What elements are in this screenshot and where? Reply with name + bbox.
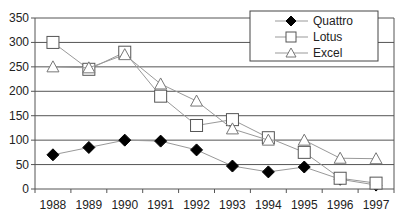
y-tick-label: 200: [9, 84, 29, 98]
series-excel: [47, 49, 382, 164]
legend: QuattroLotusExcel: [250, 11, 378, 61]
x-tick-label: 1990: [111, 198, 138, 212]
square-marker-icon: [334, 172, 346, 184]
diamond-marker-icon: [119, 134, 131, 146]
series-line: [53, 55, 376, 159]
square-marker-icon: [370, 177, 382, 189]
diamond-marker-icon: [226, 160, 238, 172]
x-tick-label: 1994: [255, 198, 282, 212]
y-tick-label: 0: [22, 182, 29, 196]
legend-label: Quattro: [313, 14, 353, 28]
diamond-marker-icon: [83, 141, 95, 153]
series-quattro: [47, 134, 382, 191]
y-tick-label: 100: [9, 133, 29, 147]
y-tick-label: 350: [9, 11, 29, 25]
x-tick-label: 1991: [147, 198, 174, 212]
triangle-marker-icon: [334, 152, 346, 163]
y-tick-label: 150: [9, 109, 29, 123]
x-tick-label: 1993: [219, 198, 246, 212]
x-tick-label: 1992: [183, 198, 210, 212]
x-tick-label: 1988: [40, 198, 67, 212]
diamond-marker-icon: [191, 144, 203, 156]
diamond-marker-icon: [262, 166, 274, 178]
triangle-marker-icon: [155, 78, 167, 89]
y-tick-label: 300: [9, 35, 29, 49]
x-tick-label: 1989: [75, 198, 102, 212]
x-tick-label: 1997: [363, 198, 390, 212]
diamond-marker-icon: [47, 149, 59, 161]
y-tick-label: 50: [16, 158, 30, 172]
x-tick-label: 1995: [291, 198, 318, 212]
legend-label: Excel: [313, 46, 342, 60]
triangle-marker-icon: [191, 95, 203, 106]
diamond-marker-icon: [155, 135, 167, 147]
line-chart: 0501001502002503003501988198919901991199…: [0, 0, 401, 221]
square-marker-icon: [286, 32, 296, 42]
square-marker-icon: [191, 119, 203, 131]
x-tick-label: 1996: [327, 198, 354, 212]
y-tick-label: 250: [9, 60, 29, 74]
square-marker-icon: [47, 36, 59, 48]
legend-label: Lotus: [313, 30, 342, 44]
diamond-marker-icon: [298, 161, 310, 173]
square-marker-icon: [155, 90, 167, 102]
series-line: [53, 140, 376, 185]
square-marker-icon: [298, 146, 310, 158]
